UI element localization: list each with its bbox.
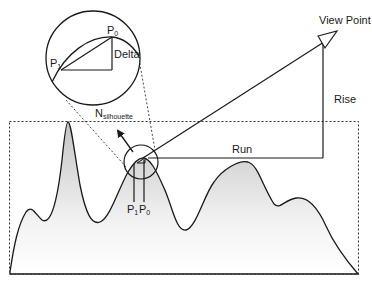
run-label: Run: [232, 143, 252, 155]
n-silhouette-label: Nsilhouette: [95, 107, 133, 120]
rise-label: Rise: [334, 93, 356, 105]
view-point-label: View Point: [319, 14, 371, 26]
terrain-profile: [10, 122, 358, 274]
silhouette-diagram: View Point Rise Run Delta P0 P1 Nsilhoue…: [0, 0, 372, 285]
sight-line: [143, 42, 324, 158]
delta-label: Delta: [114, 48, 141, 60]
view-point-marker: [318, 31, 337, 48]
zoom-line-right: [139, 59, 155, 150]
silhouette-normal-arrow: [118, 131, 133, 152]
